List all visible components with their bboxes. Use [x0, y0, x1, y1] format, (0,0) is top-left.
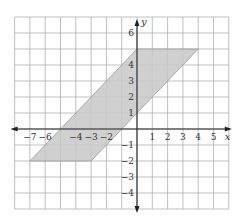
y-axis-label: y: [140, 16, 147, 27]
x-tick-label: −3: [84, 132, 98, 142]
x-tick-label: −6: [39, 132, 53, 142]
x-axis-left-arrow-icon: [11, 127, 18, 132]
x-tick-label: −7: [23, 132, 37, 142]
y-tick-label: 3: [128, 76, 134, 86]
x-tick-label: 1: [149, 132, 155, 142]
y-tick-label: −4: [121, 188, 135, 198]
x-tick-label: 5: [211, 132, 217, 142]
x-tick-label: 2: [165, 132, 171, 142]
x-axis-label: x: [225, 131, 231, 142]
coordinate-plane: −7−6−4−3−21234564321−1−2−3−4 x y: [0, 0, 238, 221]
y-tick-label: 6: [128, 28, 134, 38]
x-tick-label: −4: [69, 132, 83, 142]
y-tick-label: −1: [121, 140, 134, 150]
x-tick-label: −2: [100, 132, 113, 142]
y-tick-label: 4: [128, 60, 134, 70]
y-tick-label: 1: [128, 108, 134, 118]
y-tick-label: −3: [121, 172, 135, 182]
y-axis-up-arrow-icon: [135, 19, 140, 26]
y-tick-label: −2: [121, 156, 134, 166]
x-tick-label: 3: [180, 132, 186, 142]
y-axis-down-arrow-icon: [135, 206, 140, 213]
shaded-parallelogram: [30, 49, 198, 161]
x-tick-label: 4: [195, 132, 201, 142]
y-tick-label: 2: [128, 92, 134, 102]
